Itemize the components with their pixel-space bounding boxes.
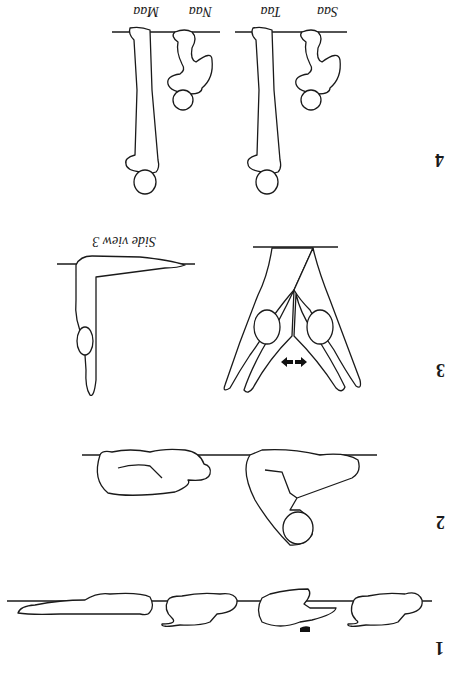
panel-3: Side view 3 3 <box>57 234 445 395</box>
panel-1: 1 <box>7 589 444 658</box>
panel-4: Maa Naa Taa Saa 4 <box>112 4 444 194</box>
head <box>283 512 313 544</box>
panel-2: 2 <box>82 449 445 545</box>
label-taa: Taa <box>260 4 281 19</box>
head-side <box>77 327 93 355</box>
label-maa: Maa <box>133 4 160 19</box>
figure-taa <box>248 27 281 194</box>
label-saa: Saa <box>317 4 338 19</box>
figure-curled-left <box>97 449 210 495</box>
figure-naa <box>168 30 213 110</box>
figure-crouch-2 <box>348 593 422 626</box>
head-left <box>254 310 280 344</box>
head-right <box>307 310 333 344</box>
panel-number-3: 3 <box>436 360 445 380</box>
panel-number-2: 2 <box>436 512 445 532</box>
panel-number-1: 1 <box>435 638 444 658</box>
arrow-right-icon <box>295 357 307 367</box>
arrow-icon <box>300 626 310 632</box>
figure-canvas: Maa Naa Taa Saa 4 Side view 3 3 <box>0 0 467 686</box>
figure-saa <box>296 30 341 110</box>
label-side-view: Side view 3 <box>92 234 156 249</box>
label-naa: Naa <box>189 4 213 19</box>
figure-maa <box>126 27 159 194</box>
figure-side-view <box>76 256 185 395</box>
figure-crouch-1 <box>162 593 237 626</box>
arrow-left-icon <box>281 357 293 367</box>
panel-number-4: 4 <box>435 150 444 170</box>
figure-crouch-reach <box>259 589 337 626</box>
figure-prone <box>18 593 153 614</box>
